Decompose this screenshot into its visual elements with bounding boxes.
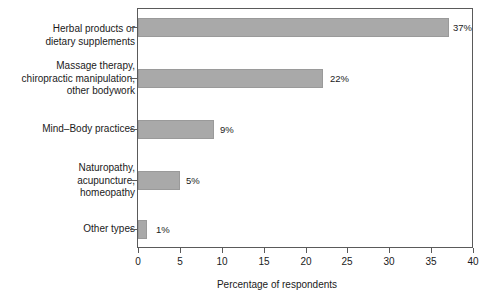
x-axis-tick [473,248,474,253]
x-axis-tick [306,248,307,253]
x-axis-tick [180,248,181,253]
x-axis-tick-label: 20 [286,256,326,267]
x-axis-tick-label: 30 [369,256,409,267]
x-axis-tick [347,248,348,253]
category-label: Mind–Body practices [0,123,135,136]
y-axis-tick [130,78,138,79]
y-axis-tick [130,129,138,130]
category-label: Herbal products or dietary supplements [0,23,135,48]
x-axis-title-wrapper: Percentage of respondents [0,279,490,290]
x-axis-tick [222,248,223,253]
bar-naturopathy[interactable] [138,171,180,190]
bar-mind-body-practices[interactable] [138,120,214,139]
bar-value-label: 37% [453,18,472,37]
category-label: Other types [0,223,135,236]
y-axis-tick [130,180,138,181]
x-axis-tick [431,248,432,253]
x-axis-title: Percentage of respondents [217,279,337,290]
x-axis-tick-label: 35 [411,256,451,267]
x-axis-tick [138,248,139,253]
x-axis-tick-label: 15 [244,256,284,267]
bar-massage-therapy[interactable] [138,69,323,88]
y-axis-tick [130,229,138,230]
bar-other-types[interactable] [138,220,147,239]
x-axis-tick-label: 10 [202,256,242,267]
x-axis-tick [264,248,265,253]
bar-value-label: 22% [330,69,349,88]
bar-value-label: 9% [220,120,234,139]
x-axis-tick-label: 0 [118,256,158,267]
bar-value-label: 1% [156,220,170,239]
x-axis-tick-label: 40 [453,256,490,267]
x-axis-tick-label: 5 [160,256,200,267]
category-label: Naturopathy, acupuncture, homeopathy [0,162,135,200]
x-axis-tick [389,248,390,253]
bar-chart: Herbal products or dietary supplements 3… [0,0,490,302]
bar-herbal-products[interactable] [138,18,449,37]
bar-value-label: 5% [186,171,200,190]
x-axis-tick-label: 25 [327,256,367,267]
y-axis-tick [130,27,138,28]
category-label: Massage therapy, chiropractic manipulati… [0,60,135,98]
